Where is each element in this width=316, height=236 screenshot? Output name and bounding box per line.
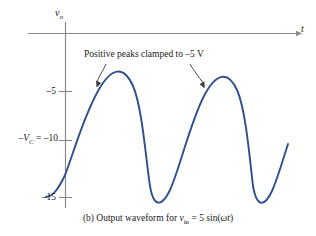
x-axis-label: t: [301, 24, 304, 34]
caption-equation: = 5 sin(: [189, 213, 220, 223]
y-axis-label: vo: [55, 8, 63, 21]
annotation-leader-left: [96, 64, 106, 88]
tick-label-minus-vc: –VC = –10: [2, 134, 58, 146]
caption-omega-t: ωt: [221, 213, 230, 223]
figure-output-waveform: vo t –5 –15 –VC = –10 Positive peaks cla…: [0, 0, 316, 236]
vc-value: = –10: [34, 133, 58, 143]
y-axis-label-subscript: o: [59, 13, 63, 21]
waveform-curve: [46, 72, 288, 203]
annotation-leader-right: [190, 64, 205, 88]
x-axis: [28, 31, 302, 36]
annotation-text: Positive peaks clamped to –5 V: [84, 50, 204, 60]
tick-label-minus-5: –5: [26, 87, 56, 97]
caption-prefix: (b) Output waveform for: [83, 213, 180, 223]
figure-caption: (b) Output waveform for vin = 5 sin(ωt): [0, 214, 316, 226]
caption-suffix: ): [230, 213, 233, 223]
tick-label-minus-15: –15: [26, 193, 56, 203]
